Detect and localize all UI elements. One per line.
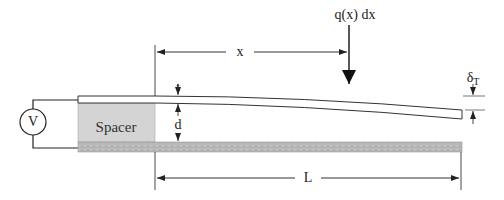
delta-symbol: δ bbox=[467, 70, 474, 85]
tip-deflection-label: δT bbox=[467, 71, 480, 87]
bottom-electrode bbox=[78, 142, 462, 152]
delta-subscript: T bbox=[473, 76, 479, 87]
voltage-label: V bbox=[28, 115, 38, 129]
gap-label: d bbox=[175, 117, 182, 133]
x-label: x bbox=[234, 45, 247, 59]
spacer-label: Spacer bbox=[96, 120, 137, 135]
bottom-wire bbox=[33, 135, 78, 148]
diagram-canvas bbox=[0, 0, 504, 200]
cantilever-electrostatic-diagram: x q(x) dx t d δT L Spacer V bbox=[0, 0, 504, 200]
thickness-label: t bbox=[176, 80, 180, 93]
top-wire bbox=[33, 100, 78, 109]
length-label: L bbox=[300, 171, 317, 185]
load-label: q(x) dx bbox=[335, 8, 376, 22]
